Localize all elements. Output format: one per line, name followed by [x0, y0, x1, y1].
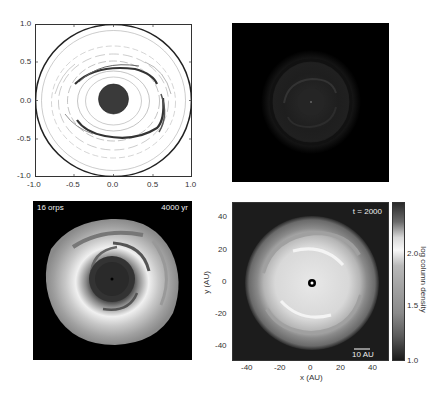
y-tick-label: 0.0	[20, 96, 31, 105]
y-axis-label: y (AU)	[202, 271, 211, 294]
contour-plot-area	[35, 24, 192, 177]
x-tick-label: 20	[336, 363, 345, 372]
y-tick-label: 0.5	[20, 57, 31, 66]
time-label: t = 2000	[353, 207, 382, 216]
density-map-plot-area: t = 2000 10 AU	[232, 202, 389, 361]
panel-disk-image-16-orps: 16 orps 4000 yr	[33, 201, 192, 360]
x-tick-label: 0.5	[147, 180, 158, 189]
density-map-image	[233, 203, 389, 361]
x-tick-label: -1.0	[27, 180, 41, 189]
scale-bar-label: 10 AU	[352, 350, 374, 359]
y-tick-label: -1.0	[17, 171, 31, 180]
colorbar-tick-label: 2.0	[407, 249, 418, 258]
y-tick-label: 0	[222, 277, 226, 286]
panel-dark-density-image	[232, 23, 389, 182]
y-tick-label: -20	[215, 309, 227, 318]
time-label: 4000 yr	[161, 203, 188, 212]
colorbar-label: log column density	[419, 246, 428, 312]
dark-disk-image	[232, 23, 389, 182]
y-tick-label: 1.0	[20, 19, 31, 28]
x-tick-label: 40	[368, 363, 377, 372]
y-tick-label: 20	[218, 245, 227, 254]
y-tick-label: -0.5	[17, 134, 31, 143]
x-tick-label: 1.0	[185, 180, 196, 189]
panel-column-density-map: t = 2000 10 AU 40 20 0 -20 -40 y (AU) -4…	[200, 195, 445, 394]
panel-contour-plot: 1.0 0.5 0.0 -0.5 -1.0 -1.0 -0.5 0.0 0.5 …	[0, 0, 220, 195]
x-tick-label: 0.0	[107, 180, 118, 189]
bright-disk-image	[33, 201, 192, 360]
x-tick-label: -20	[274, 363, 286, 372]
x-axis-label: x (AU)	[300, 373, 323, 382]
orbits-label: 16 orps	[37, 203, 64, 212]
colorbar-tick-label: 1.0	[407, 356, 418, 365]
x-tick-label: 0	[308, 363, 312, 372]
y-tick-label: -40	[215, 341, 227, 350]
colorbar-tick-label: 1.5	[407, 301, 418, 310]
y-tick-label: 40	[218, 212, 227, 221]
x-tick-label: -40	[241, 363, 253, 372]
x-tick-label: -0.5	[66, 180, 80, 189]
colorbar	[392, 202, 405, 361]
